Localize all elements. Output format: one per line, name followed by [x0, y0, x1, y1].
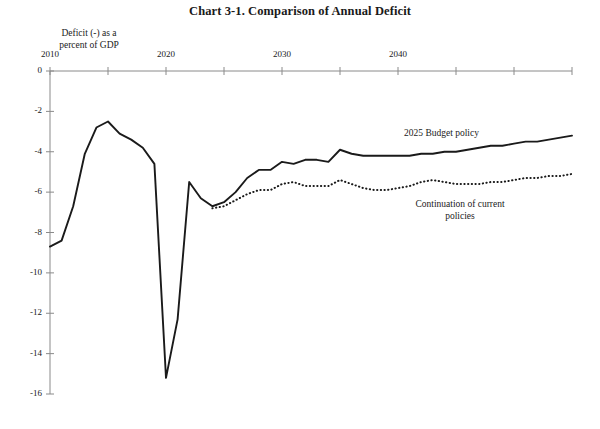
y-tick-label: -2	[16, 106, 42, 115]
y-tick-label: -4	[16, 147, 42, 156]
y-axis-label: Deficit (-) as a percent of GDP	[34, 28, 144, 51]
series-line-budget-policy	[50, 121, 572, 377]
series-label-current-line2: policies	[395, 211, 525, 223]
chart-title: Chart 3-1. Comparison of Annual Deficit	[0, 4, 600, 19]
y-tick-label: -6	[16, 187, 42, 196]
x-tick-label: 2040	[376, 50, 420, 59]
y-axis-label-line1: Deficit (-) as a	[34, 28, 144, 40]
y-tick-label: -8	[16, 228, 42, 237]
series-label-current-line1: Continuation of current	[395, 199, 525, 211]
series-label-budget-policy: 2025 Budget policy	[404, 128, 524, 140]
y-tick-label: -12	[16, 308, 42, 317]
x-tick-label: 2030	[260, 50, 304, 59]
x-tick-label: 2010	[28, 50, 72, 59]
series-label-current-policies: Continuation of current policies	[395, 199, 525, 222]
y-tick-label: -14	[16, 349, 42, 358]
y-tick-label: -10	[16, 268, 42, 277]
chart-container: Chart 3-1. Comparison of Annual Deficit …	[0, 0, 600, 429]
x-tick-label: 2020	[144, 50, 188, 59]
y-tick-label: 0	[16, 66, 42, 75]
y-tick-label: -16	[16, 389, 42, 398]
